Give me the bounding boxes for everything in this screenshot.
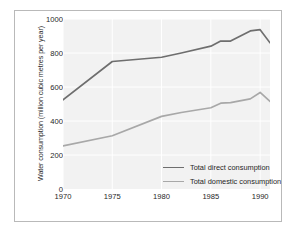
y-tick-label: 200 [37, 151, 63, 160]
x-tick-label: 1985 [202, 192, 219, 201]
y-tick-label: 600 [37, 83, 63, 92]
legend-swatch-direct [163, 167, 184, 168]
x-tick-label: 1980 [153, 192, 170, 201]
legend-item-domestic: Total domestic consumption [163, 177, 281, 186]
legend-swatch-domestic [163, 181, 184, 182]
line-chart: Water consumption (million cubic metres … [15, 11, 283, 223]
chart-frame: Water consumption (million cubic metres … [14, 10, 282, 222]
y-tick-label: 1000 [37, 15, 63, 24]
series-line-1 [63, 92, 270, 146]
x-tick-label: 1990 [252, 192, 269, 201]
legend-label-domestic: Total domestic consumption [190, 177, 281, 186]
x-tick-label: 1975 [104, 192, 121, 201]
y-tick-label: 400 [37, 117, 63, 126]
legend-label-direct: Total direct consumption [190, 163, 270, 172]
y-tick-label: 800 [37, 49, 63, 58]
legend-item-direct: Total direct consumption [163, 163, 270, 172]
x-tick-label: 1970 [55, 192, 72, 201]
series-line-0 [63, 30, 270, 100]
